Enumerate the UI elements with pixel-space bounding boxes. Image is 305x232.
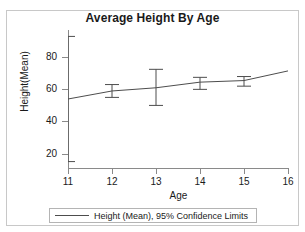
- x-tick-label-16: 16: [273, 176, 303, 187]
- legend: Height (Mean), 95% Confidence Limits: [49, 208, 257, 223]
- series-plot: [68, 30, 288, 168]
- legend-line-swatch: [55, 215, 89, 216]
- x-tick-14: [200, 169, 201, 174]
- series-line-0: [68, 71, 288, 99]
- x-tick-label-13: 13: [141, 176, 171, 187]
- y-tick-label-20: 20: [17, 148, 57, 159]
- x-tick-label-12: 12: [97, 176, 127, 187]
- chart-screenshot: Average Height By Age 20406080 111213141…: [0, 0, 305, 232]
- y-axis-title: Height(Mean): [19, 32, 30, 132]
- x-tick-13: [156, 169, 157, 174]
- error-bar-15: [237, 77, 251, 87]
- x-tick-label-11: 11: [53, 176, 83, 187]
- x-tick-label-14: 14: [185, 176, 215, 187]
- legend-label: Height (Mean), 95% Confidence Limits: [94, 211, 248, 221]
- plot-area: [68, 30, 288, 168]
- chart-title: Average Height By Age: [0, 11, 305, 25]
- x-tick-11: [68, 169, 69, 174]
- x-tick-15: [244, 169, 245, 174]
- x-axis-title: Age: [68, 190, 289, 201]
- x-tick-label-15: 15: [229, 176, 259, 187]
- x-tick-12: [112, 169, 113, 174]
- x-axis-line: [68, 168, 289, 169]
- x-tick-16: [288, 169, 289, 174]
- error-bar-14: [193, 77, 207, 89]
